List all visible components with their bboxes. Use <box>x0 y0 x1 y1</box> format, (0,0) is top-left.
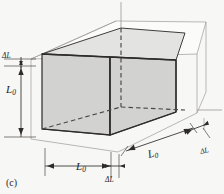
vdim-L0-arrow-bottom <box>18 128 23 135</box>
thermal-expansion-figure: L0 ΔL L0 ΔL L0 ΔL (c) <box>0 0 224 194</box>
label-height-increase: ΔL <box>2 52 11 60</box>
label-depth-increase: ΔL <box>199 146 209 155</box>
figure-drawing-canvas <box>0 0 224 194</box>
hdim-L0-arrow-left <box>47 163 54 168</box>
hdim-deltaL-arrow-right <box>120 164 125 168</box>
label-height-original: L0 <box>6 84 16 96</box>
label-height-original-subscript: 0 <box>12 88 16 97</box>
ddim-extension-end <box>203 128 210 138</box>
label-width-original: L0 <box>76 161 86 173</box>
hdim-deltaL-arrow-left <box>105 164 110 168</box>
label-width-original-subscript: 0 <box>82 165 86 174</box>
label-width-increase: ΔL <box>105 176 114 184</box>
solid-block-front-face <box>42 54 110 135</box>
vdim-L0-arrow-top <box>18 68 23 75</box>
panel-label: (c) <box>6 178 17 188</box>
solid-block <box>42 28 185 135</box>
expanded-box-front-bottom-edge <box>31 139 118 152</box>
